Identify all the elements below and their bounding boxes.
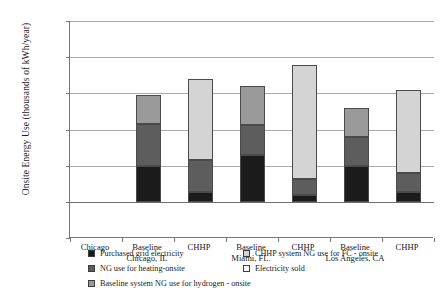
legend-column-left: Purchased grid electricityNG use for hea… xyxy=(88,246,251,291)
y-axis-title: Onsite Energy Use (thousands of kWh/year… xyxy=(21,0,31,219)
legend-item[interactable]: Purchased grid electricity xyxy=(88,246,251,260)
bar-segment-purchased_grid_electricity[interactable] xyxy=(292,195,317,202)
legend-swatch-icon xyxy=(243,265,250,272)
legend-item[interactable]: Electricity sold xyxy=(243,261,378,275)
legend-label: Purchased grid electricity xyxy=(100,249,184,258)
y-tick-mark xyxy=(66,130,70,131)
legend-item[interactable]: Baseline system NG use for hydrogen - on… xyxy=(88,276,251,290)
bar-segment-purchased_grid_electricity[interactable] xyxy=(396,192,421,201)
bar-segment-chhp_ng_fc_onsite[interactable] xyxy=(396,90,421,172)
bar-segment-ng_heating_onsite[interactable] xyxy=(396,173,421,193)
plot-inner: 25,00020,00015,00010,0005,0000-5,000 xyxy=(70,21,433,237)
bar-segment-ng_heating_onsite[interactable] xyxy=(292,179,317,194)
plot-area: 25,00020,00015,00010,0005,0000-5,000 xyxy=(69,21,433,238)
bar-segment-purchased_grid_electricity[interactable] xyxy=(136,166,161,202)
legend-label: NG use for heating-onsite xyxy=(100,264,185,273)
y-tick-mark xyxy=(66,93,70,94)
bar-segment-purchased_grid_electricity[interactable] xyxy=(240,155,265,202)
bar-segment-ng_heating_onsite[interactable] xyxy=(344,137,369,166)
bar-stack[interactable] xyxy=(136,21,161,238)
legend-label: Baseline system NG use for hydrogen - on… xyxy=(100,279,251,288)
legend-item[interactable]: CHHP system NG use for FC - onsite xyxy=(243,246,378,260)
bar-stack[interactable] xyxy=(240,21,265,238)
y-tick-mark xyxy=(66,57,70,58)
bar-segment-baseline_ng_hydrogen_onsite[interactable] xyxy=(136,95,161,125)
bar-segment-baseline_ng_hydrogen_onsite[interactable] xyxy=(240,86,265,125)
bar-segment-chhp_ng_fc_onsite[interactable] xyxy=(292,65,317,179)
bar-segment-ng_heating_onsite[interactable] xyxy=(240,125,265,155)
stacked-bar-chart: Onsite Energy Use (thousands of kWh/year… xyxy=(0,0,442,300)
legend-swatch-icon xyxy=(88,265,95,272)
legend-swatch-icon xyxy=(243,250,250,257)
legend-label: Electricity sold xyxy=(255,264,305,273)
legend-label: CHHP system NG use for FC - onsite xyxy=(255,249,378,258)
bar-stack[interactable] xyxy=(396,21,421,238)
bar-segment-ng_heating_onsite[interactable] xyxy=(188,160,213,193)
bar-segment-chhp_ng_fc_onsite[interactable] xyxy=(188,79,213,160)
bar-stack[interactable] xyxy=(344,21,369,238)
y-tick-mark xyxy=(66,202,70,203)
legend-item[interactable]: NG use for heating-onsite xyxy=(88,261,251,275)
bar-segment-purchased_grid_electricity[interactable] xyxy=(344,166,369,202)
legend-swatch-icon xyxy=(88,250,95,257)
legend-column-right: CHHP system NG use for FC - onsiteElectr… xyxy=(243,246,378,276)
legend-swatch-icon xyxy=(88,280,95,287)
bar-segment-baseline_ng_hydrogen_onsite[interactable] xyxy=(344,108,369,137)
bar-segment-ng_heating_onsite[interactable] xyxy=(136,124,161,165)
bar-stack[interactable] xyxy=(292,21,317,238)
bar-stack[interactable] xyxy=(188,21,213,238)
y-tick-mark xyxy=(66,21,70,22)
bar-segment-purchased_grid_electricity[interactable] xyxy=(188,192,213,201)
y-tick-mark xyxy=(66,166,70,167)
